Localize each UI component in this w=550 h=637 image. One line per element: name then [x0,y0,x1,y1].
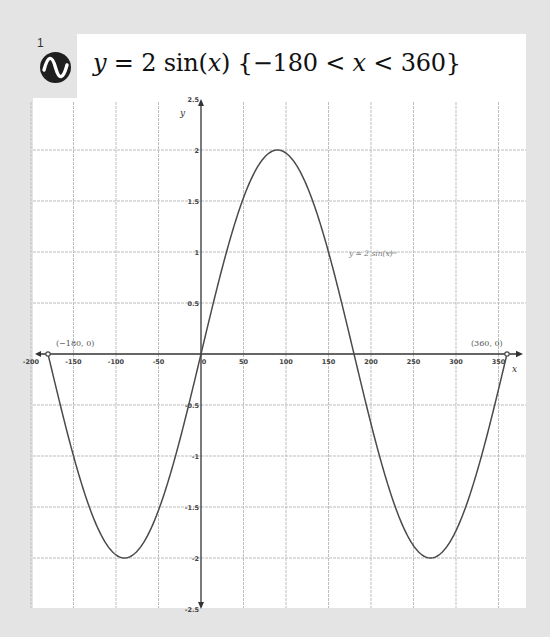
x-tick-label: 100 [279,358,293,366]
annotation-end-point: (360, 0) [471,339,503,348]
endpoint-marker [505,352,509,356]
curve-label: y = 2 sin(x) [348,249,393,258]
y-tick-label: 2.5 [187,96,199,104]
y-tick-label: 0.5 [187,300,199,308]
x-tick-label: 250 [407,358,421,366]
x-axis-right-arrow-icon [516,351,523,357]
x-tick-label: -100 [108,358,125,366]
x-tick-label: -200 [23,358,40,366]
x-tick-label: 350 [492,358,506,366]
sine-chart[interactable]: -200-150-100-50050100150200250300350-2.5… [0,0,550,637]
endpoint-marker [46,352,50,356]
y-tick-label: 1 [194,249,199,257]
y-tick-label: -2.5 [185,606,200,614]
x-tick-label: 200 [364,358,378,366]
x-tick-label: 50 [239,358,249,366]
x-axis-left-arrow-icon [35,351,41,357]
x-axis-label: x [512,364,517,374]
x-tick-label: -50 [153,358,165,366]
y-tick-label: -0.5 [185,402,200,410]
y-tick-label: 2 [194,147,199,155]
y-tick-label: -1 [192,453,200,461]
y-tick-label: 1.5 [187,198,199,206]
y-axis-label: y [179,108,186,118]
x-tick-label: 150 [322,358,336,366]
annotation-start-point: (−180, 0) [56,339,94,348]
x-tick-label: 0 [202,358,207,366]
x-tick-label: 300 [449,358,463,366]
y-tick-label: -2 [192,555,199,563]
y-tick-label: -1.5 [185,504,200,512]
x-tick-label: -150 [65,358,82,366]
